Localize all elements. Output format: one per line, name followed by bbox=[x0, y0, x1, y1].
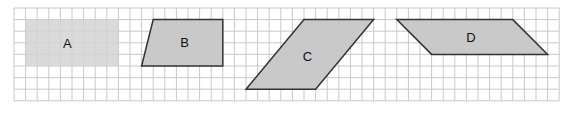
shape-d: D bbox=[397, 20, 548, 55]
shape-a: A bbox=[26, 20, 119, 66]
shape-label: B bbox=[180, 35, 189, 50]
shape-label: D bbox=[466, 30, 475, 45]
shape-label: A bbox=[63, 36, 72, 51]
shapes: ABCD bbox=[26, 20, 548, 90]
shape-b: B bbox=[142, 20, 223, 66]
shape-label: C bbox=[303, 49, 312, 64]
shape-a-polygon bbox=[26, 20, 119, 66]
grid-diagram: ABCD bbox=[0, 0, 567, 114]
